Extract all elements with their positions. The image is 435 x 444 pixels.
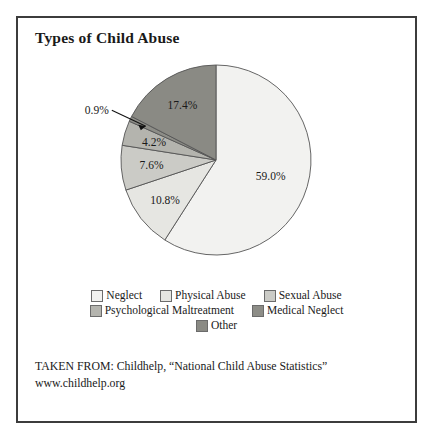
legend-item-label: Other <box>211 320 237 332</box>
legend-item[interactable]: Medical Neglect <box>252 305 343 317</box>
legend-swatch-icon <box>252 305 264 317</box>
pie-slice-label: 17.4% <box>168 99 198 111</box>
legend-swatch-icon <box>91 290 103 302</box>
legend-swatch-icon <box>160 290 172 302</box>
legend-item-label: Psychological Maltreatment <box>105 305 234 317</box>
pie-slice-label: 10.8% <box>150 194 180 206</box>
source-note: TAKEN FROM: Childhelp, “National Child A… <box>35 358 395 392</box>
legend-item[interactable]: Psychological Maltreatment <box>90 305 234 317</box>
page-title: Types of Child Abuse <box>35 29 180 47</box>
legend-item-label: Sexual Abuse <box>279 290 342 302</box>
legend-item[interactable]: Physical Abuse <box>160 290 246 302</box>
legend-row: Other <box>18 320 415 332</box>
chart-legend: NeglectPhysical AbuseSexual AbusePsychol… <box>18 290 415 335</box>
pie-slice-label: 4.2% <box>142 136 166 148</box>
legend-item[interactable]: Sexual Abuse <box>264 290 342 302</box>
legend-item[interactable]: Neglect <box>91 290 142 302</box>
legend-swatch-icon <box>90 305 102 317</box>
source-url-line: www.childhelp.org <box>35 375 395 392</box>
legend-item-label: Neglect <box>106 290 142 302</box>
legend-swatch-icon <box>264 290 276 302</box>
pie-chart: 59.0%10.8%7.6%4.2%17.4% 0.9% <box>18 54 415 294</box>
legend-swatch-icon <box>196 320 208 332</box>
legend-item-label: Physical Abuse <box>175 290 246 302</box>
legend-row: NeglectPhysical AbuseSexual Abuse <box>18 290 415 302</box>
pie-slice-label: 7.6% <box>140 159 164 171</box>
source-citation-line: TAKEN FROM: Childhelp, “National Child A… <box>35 358 395 375</box>
pie-slice-label: 0.9% <box>85 104 109 116</box>
pie-chart-svg: 59.0%10.8%7.6%4.2%17.4% 0.9% <box>18 54 415 294</box>
legend-row: Psychological MaltreatmentMedical Neglec… <box>18 305 415 317</box>
legend-item[interactable]: Other <box>196 320 237 332</box>
pie-slice-label: 59.0% <box>256 170 286 182</box>
legend-item-label: Medical Neglect <box>267 305 343 317</box>
figure-frame: Types of Child Abuse 59.0%10.8%7.6%4.2%1… <box>16 16 417 423</box>
